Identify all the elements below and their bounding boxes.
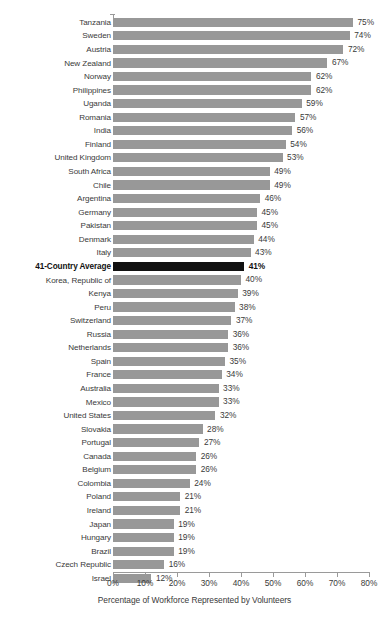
category-label: Slovakia bbox=[3, 425, 111, 434]
x-axis-tick-icon bbox=[177, 573, 178, 577]
bar-row: Uganda59% bbox=[0, 97, 389, 111]
category-label: Brazil bbox=[3, 547, 111, 556]
bar bbox=[113, 411, 215, 420]
bar-container: 24% bbox=[113, 479, 211, 488]
bar bbox=[113, 18, 353, 27]
category-label: Russia bbox=[3, 330, 111, 339]
bar bbox=[113, 397, 219, 406]
bar-container: 41% bbox=[113, 262, 265, 271]
bar bbox=[113, 357, 225, 366]
bar-value-label: 62% bbox=[316, 72, 332, 81]
bar-row: Pakistan45% bbox=[0, 219, 389, 233]
bar-container: 75% bbox=[113, 18, 374, 27]
bar-value-label: 19% bbox=[178, 520, 194, 529]
bar-row: Canada26% bbox=[0, 450, 389, 464]
category-label: Hungary bbox=[3, 533, 111, 542]
bar-row: United Kingdom53% bbox=[0, 151, 389, 165]
x-axis-tick-icon bbox=[241, 573, 242, 577]
bar-row: Norway62% bbox=[0, 70, 389, 84]
bar-value-label: 67% bbox=[332, 58, 348, 67]
category-label: Norway bbox=[3, 72, 111, 81]
bar-container: 40% bbox=[113, 275, 262, 284]
category-label: Chile bbox=[3, 181, 111, 190]
bar bbox=[113, 113, 295, 122]
bar-container: 19% bbox=[113, 519, 195, 528]
category-label: Belgium bbox=[3, 465, 111, 474]
x-axis-tick-icon bbox=[305, 573, 306, 577]
bar-value-label: 24% bbox=[194, 479, 210, 488]
bar bbox=[113, 384, 219, 393]
category-label: Colombia bbox=[3, 479, 111, 488]
x-axis-tick-label: 40% bbox=[233, 578, 250, 588]
bar-value-label: 74% bbox=[354, 31, 370, 40]
bar bbox=[113, 31, 350, 40]
bar-container: 53% bbox=[113, 153, 304, 162]
bar-row: Mexico33% bbox=[0, 395, 389, 409]
category-label: India bbox=[3, 126, 111, 135]
category-label: Germany bbox=[3, 208, 111, 217]
bar-value-label: 16% bbox=[169, 560, 185, 569]
bar-container: 35% bbox=[113, 357, 246, 366]
bar bbox=[113, 330, 228, 339]
category-label: Poland bbox=[3, 492, 111, 501]
category-label: Japan bbox=[3, 520, 111, 529]
bar-container: 33% bbox=[113, 397, 240, 406]
category-label: Kenya bbox=[3, 289, 111, 298]
bar-value-label: 32% bbox=[220, 411, 236, 420]
bar-container: 59% bbox=[113, 99, 323, 108]
bar bbox=[113, 99, 302, 108]
bar-row: Poland21% bbox=[0, 490, 389, 504]
bar-value-label: 33% bbox=[223, 384, 239, 393]
bar-value-label: 75% bbox=[358, 18, 374, 27]
bar bbox=[113, 85, 311, 94]
bar-row: New Zealand67% bbox=[0, 56, 389, 70]
bar-value-label: 35% bbox=[230, 357, 246, 366]
category-label: Denmark bbox=[3, 235, 111, 244]
category-label: New Zealand bbox=[3, 59, 111, 68]
bar-value-label: 34% bbox=[226, 370, 242, 379]
volunteer-workforce-bar-chart: Tanzania75%Sweden74%Austria72%New Zealan… bbox=[0, 0, 389, 620]
bar bbox=[113, 465, 196, 474]
bar-container: 32% bbox=[113, 411, 236, 420]
bar-value-label: 44% bbox=[258, 235, 274, 244]
bar-container: 26% bbox=[113, 465, 217, 474]
bar-container: 16% bbox=[113, 560, 185, 569]
bar-container: 26% bbox=[113, 452, 217, 461]
bar-row: United States32% bbox=[0, 409, 389, 423]
x-axis-tick-label: 20% bbox=[169, 578, 186, 588]
bar-container: 67% bbox=[113, 58, 348, 67]
category-label: Portugal bbox=[3, 438, 111, 447]
bar-container: 57% bbox=[113, 113, 316, 122]
bar-row: Belgium26% bbox=[0, 463, 389, 477]
x-axis-tick-label: 0% bbox=[107, 578, 119, 588]
bar-row: Spain35% bbox=[0, 355, 389, 369]
bar-value-label: 33% bbox=[223, 397, 239, 406]
bar-container: 46% bbox=[113, 194, 281, 203]
bar bbox=[113, 533, 174, 542]
x-axis-tick-label: 70% bbox=[329, 578, 346, 588]
bar-value-label: 45% bbox=[262, 221, 278, 230]
bar bbox=[113, 560, 164, 569]
bar-row: Finland54% bbox=[0, 138, 389, 152]
category-label: Australia bbox=[3, 384, 111, 393]
bar-row: Brazil19% bbox=[0, 544, 389, 558]
category-label: Pakistan bbox=[3, 221, 111, 230]
bar-row: Ireland21% bbox=[0, 504, 389, 518]
category-label: Argentina bbox=[3, 194, 111, 203]
bar-row: Czech Republic16% bbox=[0, 558, 389, 572]
bar-row: Portugal27% bbox=[0, 436, 389, 450]
bar-container: 33% bbox=[113, 384, 240, 393]
bar bbox=[113, 506, 180, 515]
bar bbox=[113, 289, 238, 298]
bar bbox=[113, 302, 235, 311]
bar bbox=[113, 343, 228, 352]
bar bbox=[113, 235, 254, 244]
bar-value-label: 49% bbox=[274, 167, 290, 176]
bar bbox=[113, 275, 241, 284]
bar-value-label: 45% bbox=[262, 208, 278, 217]
bar bbox=[113, 519, 174, 528]
plot-area: Tanzania75%Sweden74%Austria72%New Zealan… bbox=[0, 0, 389, 570]
bar bbox=[113, 58, 327, 67]
bar-row: Sweden74% bbox=[0, 29, 389, 43]
bar bbox=[113, 492, 180, 501]
